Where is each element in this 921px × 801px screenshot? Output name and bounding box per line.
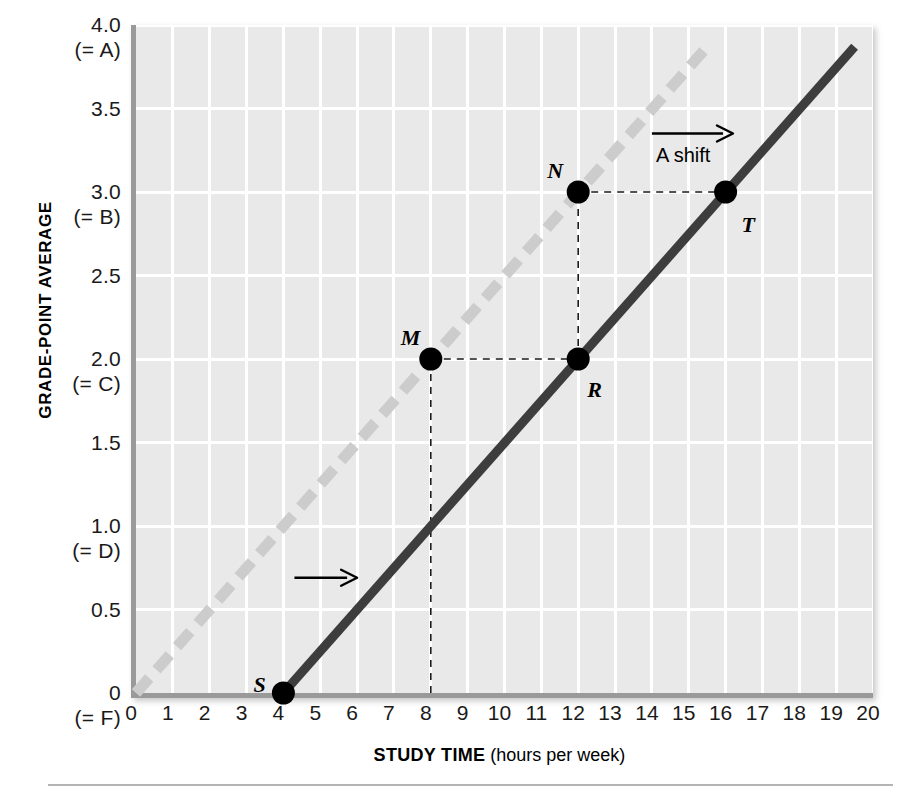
shift-annotation-label: A shift — [656, 144, 710, 167]
x-axis-title-bold: STUDY TIME — [374, 745, 486, 765]
data-point-marker-M — [419, 348, 442, 371]
y-tick-value: 3.0 — [91, 180, 121, 203]
data-point-marker-R — [567, 348, 590, 371]
y-tick-value: 4.0 — [91, 13, 121, 36]
y-tick-value: 1.0 — [91, 514, 121, 537]
data-point-marker-T — [714, 181, 737, 204]
y-axis-tick-label: 2.5 — [11, 263, 121, 288]
y-axis-tick-label: 1.0(= D) — [11, 513, 121, 563]
data-point-label-N: N — [547, 158, 563, 184]
y-axis-tick-label: 1.5 — [11, 430, 121, 455]
series-line-shifted-line — [283, 47, 854, 693]
chart-figure: GRADE-POINT AVERAGE 4.0(= A)3.53.0(= B)2… — [0, 0, 921, 801]
y-axis-tick-label: 3.5 — [11, 96, 121, 121]
x-axis-tick-label: 20 — [846, 701, 890, 725]
x-axis-title: STUDY TIME (hours per week) — [131, 745, 868, 766]
y-tick-grade: (= A) — [11, 37, 121, 62]
chart-series-overlay — [136, 25, 873, 693]
y-tick-value: 2.5 — [91, 264, 121, 287]
y-axis-tick-label: 0.5 — [11, 597, 121, 622]
y-tick-grade: (= F) — [11, 705, 121, 730]
y-tick-value: 2.0 — [91, 347, 121, 370]
y-tick-value: 3.5 — [91, 97, 121, 120]
plot-area: SMNRT A shift — [131, 25, 873, 698]
data-point-label-S: S — [253, 672, 265, 698]
data-point-marker-N — [567, 181, 590, 204]
y-axis-tick-labels: 4.0(= A)3.53.0(= B)2.52.0(= C)1.51.0(= D… — [8, 0, 121, 801]
x-axis-title-paren: (hours per week) — [490, 745, 625, 765]
y-tick-value: 1.5 — [91, 431, 121, 454]
data-point-label-R: R — [587, 377, 602, 403]
y-tick-grade: (= D) — [11, 538, 121, 563]
y-tick-grade: (= C) — [11, 371, 121, 396]
y-tick-value: 0.5 — [91, 598, 121, 621]
y-axis-tick-label: 4.0(= A) — [11, 12, 121, 62]
data-point-label-M: M — [401, 325, 421, 351]
y-axis-tick-label: 3.0(= B) — [11, 179, 121, 229]
y-axis-tick-label: 2.0(= C) — [11, 346, 121, 396]
bottom-divider-rule — [48, 784, 893, 786]
data-point-label-T: T — [742, 212, 755, 238]
y-axis-tick-label: 0(= F) — [11, 680, 121, 730]
y-tick-grade: (= B) — [11, 204, 121, 229]
series-line-original-line — [136, 47, 707, 693]
